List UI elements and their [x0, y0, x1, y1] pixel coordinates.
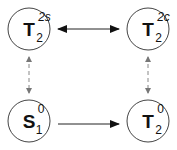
- node-s1-0: S01: [7, 99, 51, 143]
- node-base: T: [142, 19, 154, 40]
- node-t2-2s: T2s2: [7, 7, 51, 51]
- node-sub: 2: [155, 32, 162, 44]
- node-sub: 2: [36, 32, 43, 44]
- node-base: T: [23, 19, 35, 40]
- node-base: S: [23, 111, 36, 132]
- node-sup: 0: [38, 103, 45, 115]
- node-sup: 0: [157, 103, 164, 115]
- node-sup: 2c: [157, 11, 170, 23]
- node-sup: 2s: [38, 11, 51, 23]
- node-sub: 1: [36, 124, 43, 136]
- node-sub: 2: [155, 124, 162, 136]
- node-t2-0: T02: [126, 99, 170, 143]
- node-base: T: [142, 111, 154, 132]
- node-t2-2c: T2c2: [126, 7, 170, 51]
